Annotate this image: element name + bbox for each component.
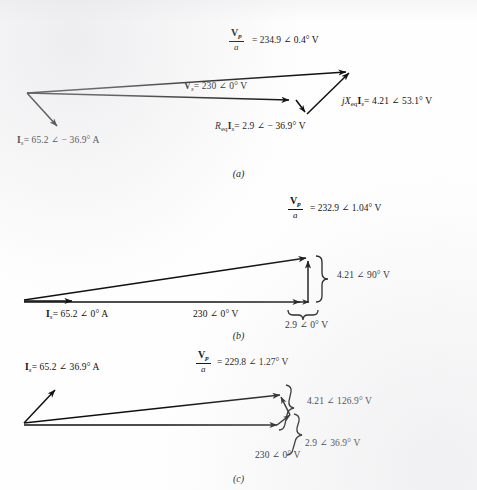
vector-req-is-c — [277, 415, 290, 425]
brace-req-is-c — [287, 414, 302, 455]
label-jx-is-b: 4.21 ∠ 90° V — [337, 271, 390, 281]
caption-a: (a) — [0, 168, 477, 179]
label-vs-value-a: = 230 ∠ 0° V — [194, 81, 248, 91]
fraction-numerator: Vp — [288, 196, 303, 209]
label-vp-over-a-fraction-a: Vp a — [229, 28, 244, 52]
phasor-diagram-a: Vp a = 234.9 ∠ 0.4° V Vs= 230 ∠ 0° V Req… — [0, 0, 477, 185]
label-jx-is-value-a: = 4.21 ∠ 53.1° V — [364, 96, 432, 106]
label-jx-is-a: jXeqIs= 4.21 ∠ 53.1° V — [342, 97, 432, 108]
vector-vp-over-a-b — [24, 258, 306, 300]
label-vs-b: 230 ∠ 0° V — [193, 310, 239, 320]
phasor-diagram-b: Vp a = 232.9 ∠ 1.04° V Is= 65.2 ∠ 0° A 2… — [0, 192, 477, 342]
fraction-numerator-sub: p — [205, 354, 209, 362]
label-vs-c: 230 ∠ 0° V — [255, 451, 301, 461]
label-is-b: Is= 65.2 ∠ 0° A — [46, 310, 108, 321]
vector-vs-a — [27, 93, 289, 100]
fraction-numerator-sub: p — [238, 32, 242, 40]
label-is-c: Is= 65.2 ∠ 36.9° A — [25, 363, 99, 374]
brace-jx-is-b — [316, 256, 328, 302]
caption-b: (b) — [0, 330, 477, 341]
vector-vp-over-a-c — [24, 395, 280, 423]
label-is-value-c: = 65.2 ∠ 36.9° A — [32, 362, 100, 372]
label-is-value-a: = 65.2 ∠ − 36.9° A — [24, 135, 100, 145]
label-vs-a: Vs= 230 ∠ 0° V — [184, 82, 247, 93]
label-is-a: Is= 65.2 ∠ − 36.9° A — [17, 136, 99, 147]
phasor-diagram-c: Is= 65.2 ∠ 36.9° A Vp a = 229.8 ∠ 1.27° … — [0, 345, 477, 490]
fraction-numerator: Vp — [229, 28, 244, 41]
brace-req-is-b — [288, 310, 318, 320]
vector-req-is-a — [296, 100, 305, 112]
vector-is-a — [27, 93, 57, 126]
label-vp-over-a-value-a: = 234.9 ∠ 0.4° V — [252, 34, 319, 45]
label-vp-over-a-fraction-b: Vp a — [288, 196, 303, 220]
label-req-is-c: 2.9 ∠ 36.9° V — [305, 439, 360, 449]
fraction-numerator-sub: p — [297, 200, 301, 208]
fraction-denominator: a — [288, 210, 303, 220]
label-is-value-b: = 65.2 ∠ 0° A — [53, 309, 109, 319]
vector-is-c — [24, 390, 55, 423]
label-req-is-a: ReqIs= 2.9 ∠ − 36.9° V — [215, 122, 306, 133]
fraction-numerator: Vp — [196, 350, 211, 363]
caption-c: (c) — [0, 473, 477, 484]
figure-page: Vp a = 234.9 ∠ 0.4° V Vs= 230 ∠ 0° V Req… — [0, 0, 477, 490]
label-vp-over-a-value-b: = 232.9 ∠ 1.04° V — [310, 202, 381, 213]
fraction-denominator: a — [196, 364, 211, 374]
label-jx-is-c: 4.21 ∠ 126.9° V — [307, 397, 372, 407]
label-req-is-value-a: = 2.9 ∠ − 36.9° V — [234, 121, 305, 131]
label-vp-over-a-value-c: = 229.8 ∠ 1.27° V — [217, 356, 288, 367]
label-vp-over-a-fraction-c: Vp a — [196, 350, 211, 374]
fraction-denominator: a — [229, 42, 244, 52]
